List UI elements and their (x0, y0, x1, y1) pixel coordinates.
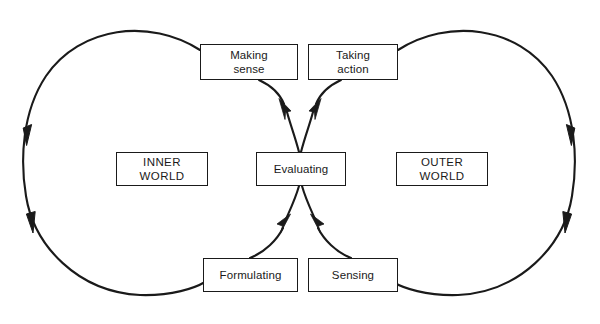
node-inner-world-label: INNER WORLD (140, 155, 185, 183)
formulating-arrowhead (277, 214, 291, 233)
inner-loop-arrowhead-lower (26, 212, 35, 234)
node-evaluating[interactable]: Evaluating (256, 152, 346, 186)
node-making-sense[interactable]: Making sense (200, 44, 298, 80)
node-formulating[interactable]: Formulating (203, 258, 298, 292)
node-evaluating-label: Evaluating (274, 162, 329, 176)
outer-loop-arrowhead-lower (563, 212, 572, 234)
node-taking-action-label: Taking action (336, 48, 370, 76)
sensing-to-evaluating (302, 186, 351, 258)
node-sensing[interactable]: Sensing (308, 258, 398, 292)
sensing-arrowhead (311, 214, 325, 233)
formulating-to-evaluating (250, 186, 299, 258)
node-sensing-label: Sensing (332, 268, 374, 282)
node-outer-world-label: OUTER WORLD (420, 155, 465, 183)
node-outer-world[interactable]: OUTER WORLD (396, 152, 488, 186)
evaluating-to-taking-action (301, 80, 341, 152)
evaluating-to-making-sense (259, 80, 299, 152)
node-inner-world[interactable]: INNER WORLD (116, 152, 208, 186)
node-taking-action[interactable]: Taking action (308, 44, 398, 80)
node-formulating-label: Formulating (220, 268, 282, 282)
cycle-diagram: Making sense Taking action INNER WORLD E… (0, 0, 600, 324)
node-making-sense-label: Making sense (230, 48, 268, 76)
